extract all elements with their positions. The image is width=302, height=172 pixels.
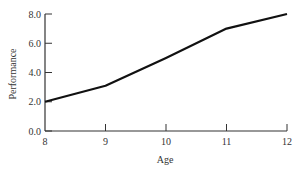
y-axis-ticks: 0.02.04.06.08.0 bbox=[29, 9, 53, 137]
x-tick-label: 11 bbox=[222, 136, 232, 147]
y-tick-label: 4.0 bbox=[29, 67, 42, 78]
y-axis-title: Performance bbox=[7, 48, 18, 100]
x-tick-label: 8 bbox=[43, 136, 48, 147]
performance-line bbox=[45, 14, 287, 102]
y-tick-label: 6.0 bbox=[29, 38, 42, 49]
y-tick-label: 8.0 bbox=[29, 9, 42, 20]
x-tick-label: 10 bbox=[161, 136, 171, 147]
x-tick-label: 12 bbox=[282, 136, 292, 147]
y-tick-label: 0.0 bbox=[29, 126, 42, 137]
line-chart: 0.02.04.06.08.0 89101112 Age Performance bbox=[0, 0, 302, 172]
y-tick-label: 2.0 bbox=[29, 96, 42, 107]
x-tick-label: 9 bbox=[103, 136, 108, 147]
x-axis-title: Age bbox=[157, 154, 174, 165]
axes bbox=[45, 14, 287, 131]
x-axis-ticks: 89101112 bbox=[43, 124, 293, 147]
